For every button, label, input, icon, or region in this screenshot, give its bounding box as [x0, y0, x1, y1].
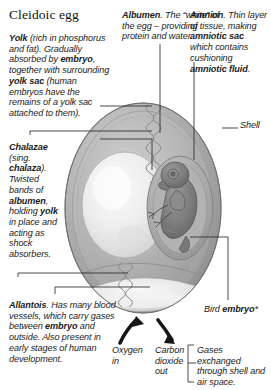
- label-bird-embryo: Bird embryo*: [204, 304, 258, 315]
- label-chalazae-lead: Chalazae: [9, 142, 48, 152]
- label-bird-embryo-bold: embryo: [222, 304, 254, 314]
- label-chalazae-bold2: chalaza: [9, 163, 41, 173]
- label-amnion-lead: Amnion: [190, 10, 223, 20]
- label-amnion-bold3: amniotic fluid: [190, 64, 248, 74]
- label-amnion-body3: .: [248, 64, 250, 74]
- label-chalazae-bold3: albumen: [9, 196, 46, 206]
- label-amnion-body2: which contains cushioning: [190, 42, 248, 63]
- label-amnion: Amnion. Thin layer of tissue, making amn…: [190, 10, 268, 74]
- label-yolk-lead: Yolk: [9, 33, 27, 43]
- label-yolk: Yolk (rich in phosphorus and fat). Gradu…: [9, 33, 113, 119]
- label-allantois-bold2: embryo: [45, 321, 77, 331]
- oxygen-in-arrow: [120, 316, 144, 343]
- label-yolk-bold3: yolk sac: [9, 76, 44, 86]
- label-allantois-lead: Allantois: [9, 300, 47, 310]
- label-shell: Shell: [240, 120, 270, 131]
- diagram-canvas: Cleidoic egg Yolk (rich in phosphorus an…: [0, 0, 271, 390]
- label-gases-exchanged: Gases exchanged through shell and air sp…: [197, 345, 267, 388]
- label-chalazae-body: (sing.: [9, 153, 31, 163]
- label-bird-embryo-body: Bird: [204, 304, 222, 314]
- label-amnion-bold2: amniotic sac: [190, 31, 244, 41]
- label-chalazae-body4: in place and acting as shock absorbers.: [9, 217, 57, 259]
- carbon-dioxide-out-arrow: [158, 320, 175, 344]
- label-carbon-dioxide-out: Carbon dioxide out: [155, 345, 195, 377]
- label-bird-embryo-note: *: [254, 304, 257, 314]
- label-albumen-lead: Albumen: [122, 10, 160, 20]
- page-title: Cleidoic egg: [9, 7, 79, 23]
- label-yolk-bold2: embryo: [60, 54, 92, 64]
- label-chalazae: Chalazae (sing. chalaza). Twisted bands …: [9, 142, 61, 260]
- label-chalazae-bold4: yolk: [40, 206, 58, 216]
- label-oxygen-in: Oxygen in: [112, 345, 148, 366]
- label-allantois: Allantois. Has many blood vessels, which…: [9, 300, 117, 364]
